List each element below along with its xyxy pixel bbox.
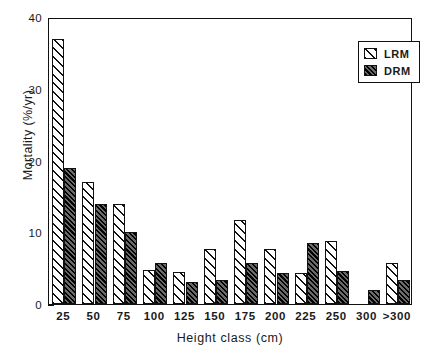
x-tick-label: 100 [144, 310, 165, 322]
x-tick-label: 300 [356, 310, 377, 322]
bar-drm-225 [307, 243, 319, 304]
bar-lrm-150 [204, 249, 216, 304]
legend-label-drm: DRM [384, 65, 411, 77]
y-axis-title: Mortality (%/yr) [21, 45, 35, 225]
y-tick-label: 20 [0, 156, 42, 168]
bar-drm-75 [125, 232, 137, 304]
legend-label-lrm: LRM [384, 48, 409, 60]
bar-lrm-25 [52, 39, 64, 304]
x-tick-label: 50 [87, 310, 101, 322]
bar-drm-250 [337, 271, 349, 304]
bar-lrm-50 [82, 182, 94, 304]
x-tick-label: 75 [117, 310, 131, 322]
bar-drm-25 [64, 168, 76, 304]
y-tick-label: 10 [0, 227, 42, 239]
x-tick-label: 150 [204, 310, 225, 322]
y-tick-label: 30 [0, 84, 42, 96]
mortality-height-class-bar-chart: Mortality (%/yr) Height class (cm) 01020… [0, 0, 424, 353]
y-tick-label: 40 [0, 12, 42, 24]
legend-item-drm: DRM [364, 63, 411, 78]
bar-lrm-75 [113, 204, 125, 304]
bar-drm-200 [277, 273, 289, 304]
bar-lrm-225 [295, 273, 307, 304]
bar-drm-125 [186, 282, 198, 304]
x-tick-label: >300 [383, 310, 411, 322]
bar-lrm-175 [234, 220, 246, 304]
x-tick-label: 25 [56, 310, 70, 322]
legend-swatch-lrm-icon [364, 48, 377, 59]
x-tick-label: 250 [326, 310, 347, 322]
x-axis-title: Height class (cm) [48, 331, 412, 345]
legend: LRM DRM [358, 41, 420, 83]
bar-lrm-200 [264, 249, 276, 304]
y-tick-label: 0 [0, 299, 42, 311]
x-tick-label: 225 [295, 310, 316, 322]
bar-drm-175 [246, 263, 258, 304]
bar-lrm-100 [143, 270, 155, 304]
bar-lrm-gt300 [386, 263, 398, 304]
x-tick-label: 125 [174, 310, 195, 322]
bar-drm-50 [95, 204, 107, 304]
bar-drm-gt300 [398, 280, 410, 304]
legend-item-lrm: LRM [364, 46, 411, 61]
x-tick-label: 175 [235, 310, 256, 322]
bar-drm-100 [155, 263, 167, 304]
bar-lrm-250 [325, 241, 337, 304]
legend-swatch-drm-icon [364, 65, 377, 76]
bar-drm-300 [368, 290, 380, 304]
y-tick-mark [48, 305, 54, 306]
x-tick-label: 200 [265, 310, 286, 322]
bar-lrm-125 [173, 272, 185, 304]
plot-area: LRM DRM [48, 18, 412, 305]
bar-drm-150 [216, 280, 228, 304]
